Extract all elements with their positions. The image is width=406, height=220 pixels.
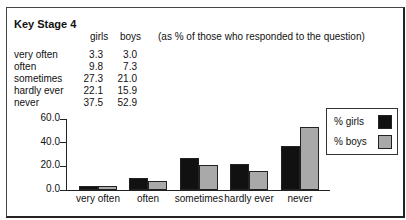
- bar-boys: [300, 127, 319, 190]
- y-tick-label: 20.0: [20, 159, 60, 170]
- y-tick-label: 60.0: [20, 112, 60, 123]
- x-tick-label: never: [265, 193, 335, 204]
- bar-chart: 60.0 40.0 20.0 0.0 very often often some…: [0, 0, 406, 220]
- legend-label-boys: % boys: [334, 136, 367, 147]
- bar-girls: [180, 158, 199, 190]
- y-tick-label: 40.0: [20, 136, 60, 147]
- bar-girls: [281, 146, 300, 190]
- bar-girls: [129, 178, 148, 190]
- chart-legend: % girls % boys: [326, 108, 398, 155]
- bar-boys: [249, 171, 268, 190]
- x-axis: [66, 190, 330, 191]
- y-tick-label: 0.0: [20, 183, 60, 194]
- bar-boys: [98, 186, 117, 190]
- legend-swatch-girls: [378, 115, 392, 129]
- legend-swatch-boys: [378, 135, 392, 149]
- bar-boys: [148, 181, 167, 190]
- y-axis: [66, 119, 67, 191]
- bar-girls: [79, 186, 98, 190]
- bar-girls: [230, 164, 249, 190]
- legend-label-girls: % girls: [334, 116, 364, 127]
- bar-boys: [199, 165, 218, 190]
